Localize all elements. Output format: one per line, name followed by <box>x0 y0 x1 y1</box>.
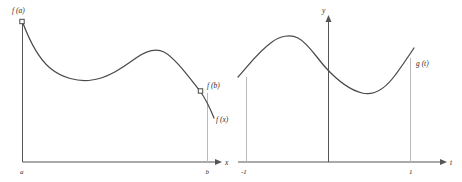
right-x-axis-label: t <box>450 158 453 167</box>
left-xtick-b: b <box>206 168 210 176</box>
right-x-axis-arrow-icon <box>440 159 447 165</box>
right-xtick-minus1: -1 <box>241 168 247 176</box>
right-y-axis-label: y <box>321 6 326 15</box>
right-y-axis-arrow-icon <box>326 15 332 22</box>
right-curve-gt <box>238 36 414 94</box>
right-xtick-plus1: 1 <box>409 168 413 176</box>
left-panel: f (a) f (b) f (x) a b x <box>12 6 229 176</box>
label-f-of-b: f (b) <box>207 81 220 90</box>
left-curve-fx <box>23 22 215 118</box>
left-x-axis-label: x <box>224 158 229 167</box>
figure-container: f (a) f (b) f (x) a b x y g (t) -1 <box>0 0 462 182</box>
label-g-of-t: g (t) <box>416 59 429 68</box>
left-point-fb-marker <box>198 89 202 93</box>
right-panel: y g (t) -1 1 t <box>238 6 453 176</box>
left-point-fa-marker <box>20 19 24 23</box>
label-f-of-x: f (x) <box>216 115 229 124</box>
label-f-of-a: f (a) <box>12 6 25 15</box>
left-xtick-a: a <box>20 168 24 176</box>
left-x-axis-arrow-icon <box>215 159 222 165</box>
figure-svg: f (a) f (b) f (x) a b x y g (t) -1 <box>0 0 462 182</box>
